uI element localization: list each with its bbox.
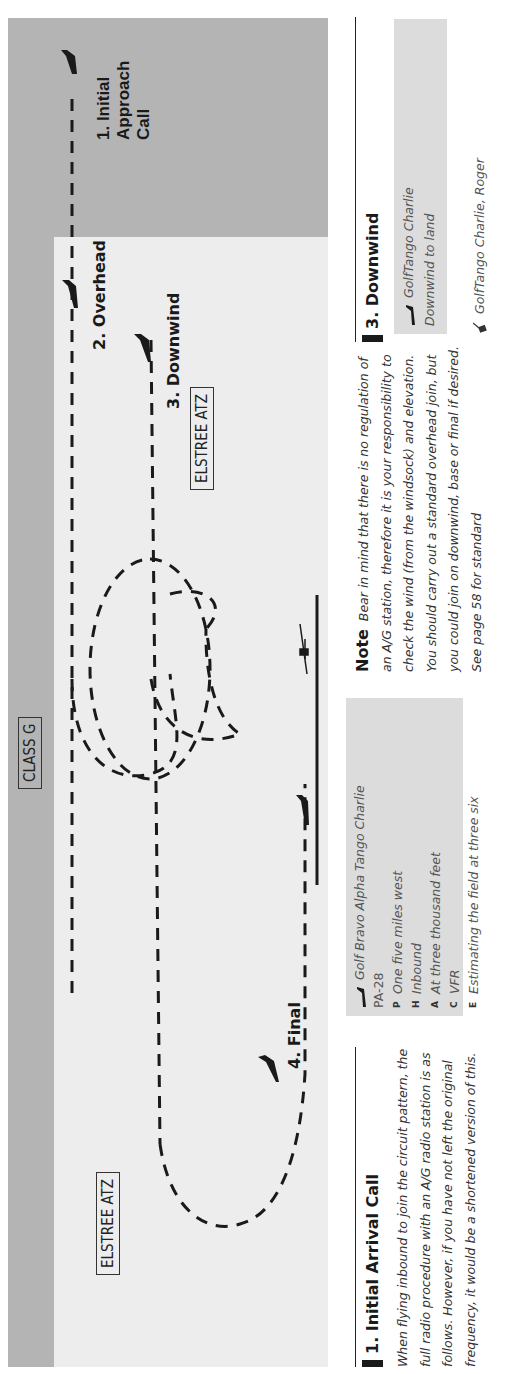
- aircraft-initial-icon: [61, 50, 77, 74]
- aircraft-icons: [61, 50, 309, 1082]
- step-final-label: 4. Final: [285, 1002, 304, 1069]
- aircraft-type: PA-28: [369, 706, 388, 1008]
- downwind-call-line2: Downwind to land: [419, 27, 440, 326]
- elstree-atz-label-right: ELSTREE ATZ: [190, 387, 214, 490]
- section-heading: 3. Downwind: [355, 17, 384, 342]
- step-initial-approach-label: 1. Initial Approach Call: [94, 30, 154, 140]
- radio-call-box-content: Golf Bravo Alpha Tango Charlie PA-28 POn…: [346, 698, 463, 1016]
- phace-row-p: POne five miles west: [388, 706, 407, 1008]
- downwind-reply: GolfTango Charlie, Roger: [462, 19, 487, 334]
- phace-row-a: AAt three thousand feet: [426, 706, 445, 1008]
- downwind-track-path: [151, 340, 160, 1144]
- rotated-page: CLASS G ELSTREE ATZ ELSTREE ATZ 1. Initi…: [0, 0, 516, 1374]
- heading-bar: [362, 335, 383, 342]
- section-downwind: 3. Downwind: [355, 17, 384, 342]
- windsock-icon: [300, 624, 308, 674]
- section-heading: 1. Initial Arrival Call: [355, 1047, 384, 1367]
- downwind-call-box: GolfTango Charlie Downwind to land: [394, 19, 447, 334]
- class-g-label: CLASS G: [18, 717, 42, 789]
- aircraft-downwind-icon: [134, 334, 151, 362]
- note-paragraph: Note Bear in mind that there is no regul…: [352, 342, 488, 672]
- radio-microphone-icon: [473, 322, 487, 334]
- aircraft-overhead-icon: [62, 280, 78, 308]
- note-label: Note: [353, 629, 372, 672]
- aircraft-runway-icon: [296, 795, 309, 825]
- final-approach-path: [160, 784, 305, 1226]
- aircraft-icon: [354, 986, 366, 1008]
- aircraft-final-icon: [258, 1055, 279, 1082]
- phace-row-e: EEstimating the field at three six: [464, 706, 483, 1008]
- aircraft-icon: [403, 304, 415, 326]
- overhead-loop-path: [72, 674, 177, 776]
- step-downwind-label: 3. Downwind: [164, 293, 183, 409]
- section-body: When flying inbound to join the circuit …: [392, 1047, 482, 1367]
- elstree-atz-label-left: ELSTREE ATZ: [96, 1172, 120, 1275]
- section-initial-arrival: 1. Initial Arrival Call When flying inbo…: [355, 1047, 482, 1367]
- step-overhead-label: 2. Overhead: [90, 240, 109, 350]
- heading-bar: [362, 1360, 383, 1367]
- phace-row-h: HInbound: [407, 706, 426, 1008]
- phace-row-c: CVFR: [445, 706, 464, 1008]
- note-body: Bear in mind that there is no regulation…: [356, 346, 484, 672]
